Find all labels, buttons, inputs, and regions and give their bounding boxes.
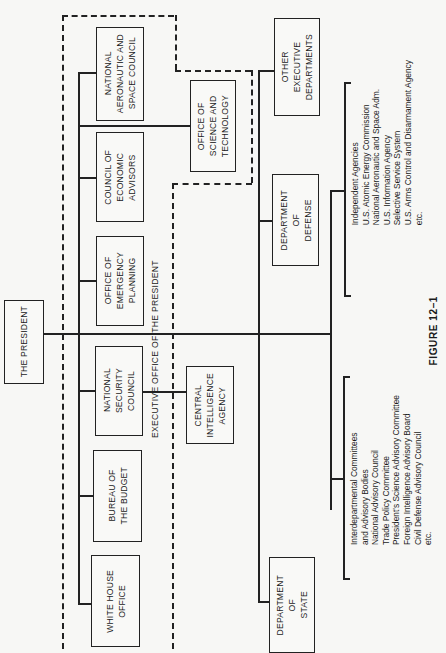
list-item: U.S. Arms Control and Disarmament Agency [403, 60, 414, 225]
dept-label: OTHER EXECUTIVE DEPARTMENTS [279, 34, 315, 100]
unit-label: OFFICE OF EMERGENCY PLANNING [102, 252, 138, 309]
eop-boundary-left [62, 15, 64, 649]
list-item: President's Science Advisory Committee [391, 395, 402, 545]
list-item: Civil Defense Advisory Council [413, 395, 424, 545]
unit-nasc: NATIONAL AERONAUTIC AND SPACE COUNCIL [96, 27, 144, 121]
president-box: THE PRESIDENT [4, 300, 44, 384]
unit-label: COUNCIL OF ECONOMIC ADVISORS [102, 150, 138, 205]
list-item: U.S. Information Agency [382, 60, 393, 225]
dept-defense: DEPARTMENT OF DEFENSE [272, 174, 319, 266]
branch-cea [78, 177, 96, 179]
unit-ost: OFFICE OF SCIENCE AND TECHNOLOGY [190, 80, 236, 172]
eop-boundary-right-upper [251, 70, 253, 183]
eop-connector [78, 72, 80, 604]
list-item: Foreign Intelligence Advisory Board [402, 395, 413, 545]
unit-label: NATIONAL AERONAUTIC AND SPACE COUNCIL [102, 34, 138, 113]
list-item: Trade Policy Committee [381, 395, 392, 545]
dept-label: DEPARTMENT OF STATE [274, 575, 310, 635]
figure-caption: FIGURE 12–1 [428, 296, 439, 365]
bracket-independent [344, 82, 346, 296]
list-item: Selective Service System [392, 60, 403, 225]
unit-who: WHITE HOUSE OFFICE [91, 555, 140, 647]
eop-boundary-notch [175, 15, 177, 70]
unit-label: NATIONAL SECURITY COUNCIL [101, 368, 137, 413]
list-item: Interdepartmental Committees [349, 395, 360, 545]
independent-agencies-list: Independent Agencies U.S. Atomic Energy … [350, 60, 424, 225]
bracket-independent-bottom [344, 295, 351, 297]
branch-oep [78, 280, 96, 282]
unit-cea: COUNCIL OF ECONOMIC ADVISORS [96, 132, 144, 222]
dept-label: DEPARTMENT OF DEFENSE [278, 190, 314, 250]
unit-label: BUREAU OF THE BUDGET [106, 467, 130, 524]
unit-label: OFFICE OF SCIENCE AND TECHNOLOGY [195, 95, 231, 157]
branch-independent [330, 190, 344, 192]
bracket-interdepartmental-bottom [343, 578, 350, 580]
branch-nasc [78, 72, 96, 74]
eop-boundary-right-lower [172, 183, 174, 649]
branch-dod [258, 220, 272, 222]
branch-who [78, 603, 92, 605]
president-label: THE PRESIDENT [18, 306, 30, 377]
eop-boundary-step2 [172, 183, 252, 185]
list-item: National Advisory Council [370, 395, 381, 545]
list-item: National Aeronautic and Space Adm. [371, 60, 382, 225]
unit-nsc: NATIONAL SECURITY COUNCIL [95, 346, 143, 436]
branch-ost [78, 125, 190, 127]
branch-interdepartmental [330, 478, 344, 480]
eop-boundary-top [62, 15, 174, 17]
agencies-connector [330, 190, 332, 510]
unit-oep: OFFICE OF EMERGENCY PLANNING [96, 236, 144, 326]
dept-state: DEPARTMENT OF STATE [269, 557, 315, 653]
list-item: Independent Agencies [350, 60, 361, 225]
list-item: and Advisory Bodies [360, 395, 371, 545]
interdepartmental-list: Interdepartmental Committees and Advisor… [349, 395, 434, 545]
bracket-interdepartmental-top [343, 376, 350, 378]
list-item: U.S. Atomic Energy Commission [361, 60, 372, 225]
list-item: etc. [414, 60, 425, 225]
departments-connector [258, 70, 260, 602]
dept-other: OTHER EXECUTIVE DEPARTMENTS [274, 18, 320, 116]
president-connector [44, 333, 330, 335]
branch-nsc [78, 390, 96, 392]
unit-bob: BUREAU OF THE BUDGET [93, 450, 142, 542]
eop-boundary-step [175, 70, 251, 72]
cia-label: CENTRAL INTELLIGENCE AGENCY [192, 373, 228, 437]
list-item: etc. [423, 395, 434, 545]
bracket-interdepartmental [343, 376, 345, 579]
cia-box: CENTRAL INTELLIGENCE AGENCY [186, 366, 234, 444]
branch-other-depts [258, 70, 274, 72]
eop-label: EXECUTIVE OFFICE OF THE PRESIDENT [150, 248, 160, 438]
unit-label: WHITE HOUSE OFFICE [104, 570, 128, 633]
